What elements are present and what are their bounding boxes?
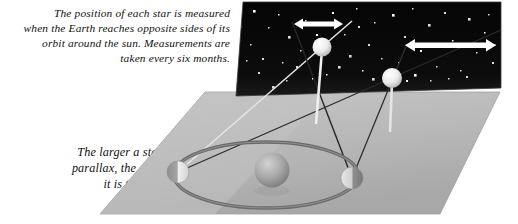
near-star	[313, 38, 332, 57]
sun	[254, 153, 290, 197]
far-star	[382, 68, 402, 88]
earth-position-a	[167, 161, 189, 183]
scene-graphic	[0, 0, 518, 224]
earth-position-b	[341, 167, 363, 189]
orbital-plane	[100, 92, 500, 214]
parallax-diagram: The position of each star is measured wh…	[0, 0, 518, 224]
night-sky-backdrop	[236, 2, 501, 96]
